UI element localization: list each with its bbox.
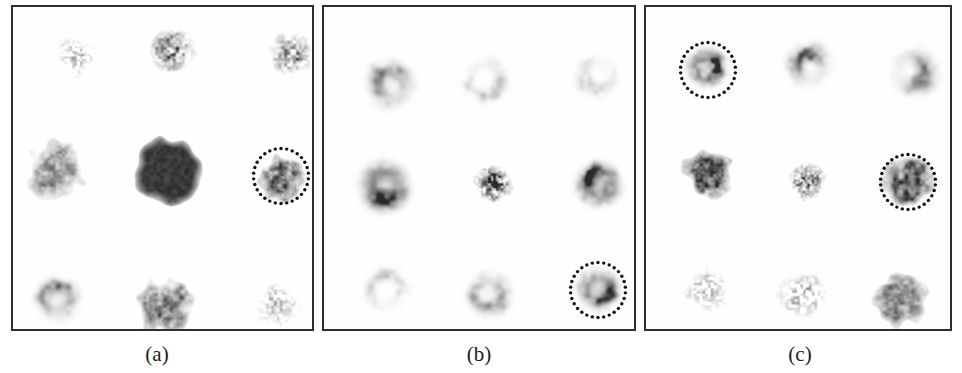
highlight-circle-marker — [675, 37, 741, 103]
diffraction-spot — [20, 264, 96, 331]
panel-caption-c: (c) — [760, 341, 840, 367]
diffraction-spot — [120, 125, 210, 215]
panel-b — [322, 5, 636, 331]
diffraction-spot — [456, 151, 522, 217]
diffraction-spot — [239, 268, 311, 331]
diffraction-spot — [256, 15, 314, 91]
diffraction-spot — [347, 253, 425, 331]
diffraction-spot — [774, 33, 846, 105]
panel-c — [644, 5, 952, 331]
highlight-circle-marker — [875, 149, 941, 215]
panel-plot-area — [646, 7, 950, 329]
highlight-circle-marker — [248, 143, 314, 209]
panel-a — [11, 5, 314, 331]
diffraction-spot — [863, 259, 939, 331]
panel-caption-a: (a) — [117, 341, 197, 367]
panel-plot-area — [13, 7, 312, 329]
diffraction-spot — [450, 253, 526, 329]
highlight-circle-marker — [565, 257, 631, 323]
diffraction-spot — [671, 140, 741, 210]
diffraction-spot — [449, 40, 527, 118]
panel-plot-area — [324, 7, 634, 329]
diffraction-spot — [347, 40, 429, 122]
diffraction-spot — [40, 19, 106, 85]
figure-root: (a)(b)(c) — [0, 0, 962, 373]
diffraction-spot — [18, 128, 96, 206]
diffraction-spot — [778, 150, 838, 210]
diffraction-spot — [875, 34, 951, 110]
diffraction-spot — [558, 39, 634, 115]
diffraction-spot — [670, 253, 742, 325]
diffraction-spot — [132, 12, 210, 90]
diffraction-spot — [126, 264, 204, 331]
diffraction-spot — [561, 145, 636, 221]
panel-caption-b: (b) — [439, 341, 519, 367]
diffraction-spot — [766, 256, 842, 331]
diffraction-spot — [342, 140, 430, 228]
